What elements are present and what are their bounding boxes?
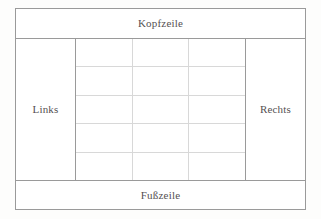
grid-cell[interactable] bbox=[133, 67, 190, 94]
grid-cell[interactable] bbox=[76, 67, 133, 94]
footer-region-label: Fußzeile bbox=[141, 190, 180, 201]
grid-cell[interactable] bbox=[133, 153, 190, 180]
grid-cell[interactable] bbox=[133, 39, 190, 66]
grid-cell[interactable] bbox=[76, 153, 133, 180]
grid-cell[interactable] bbox=[189, 153, 245, 180]
header-region[interactable]: Kopfzeile bbox=[16, 9, 305, 39]
grid-row bbox=[76, 67, 245, 95]
header-region-label: Kopfzeile bbox=[138, 18, 183, 29]
grid-cell[interactable] bbox=[76, 124, 133, 151]
left-sidebar-label: Links bbox=[32, 104, 58, 115]
grid-row bbox=[76, 124, 245, 152]
grid-cell[interactable] bbox=[189, 124, 245, 151]
right-sidebar-label: Rechts bbox=[260, 104, 291, 115]
body-region: Links bbox=[16, 39, 305, 180]
grid-cell[interactable] bbox=[189, 39, 245, 66]
grid-row bbox=[76, 96, 245, 124]
grid-cell[interactable] bbox=[76, 96, 133, 123]
grid-cell[interactable] bbox=[189, 67, 245, 94]
right-sidebar-region[interactable]: Rechts bbox=[245, 39, 305, 180]
grid-row bbox=[76, 39, 245, 67]
footer-region[interactable]: Fußzeile bbox=[16, 180, 305, 209]
left-sidebar-region[interactable]: Links bbox=[16, 39, 76, 180]
content-grid-region[interactable] bbox=[76, 39, 245, 180]
grid-cell[interactable] bbox=[189, 96, 245, 123]
page-layout-diagram: Kopfzeile Links bbox=[15, 8, 306, 210]
grid-cell[interactable] bbox=[133, 124, 190, 151]
grid-cell[interactable] bbox=[76, 39, 133, 66]
grid-row bbox=[76, 153, 245, 180]
grid-cell[interactable] bbox=[133, 96, 190, 123]
